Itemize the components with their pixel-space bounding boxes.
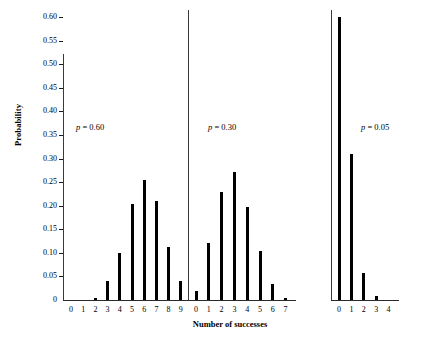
bar	[362, 273, 365, 300]
y-tick-label: 0.10	[23, 249, 57, 257]
bar	[220, 192, 223, 300]
vertical-axis-line	[331, 10, 332, 300]
baseline-axis-line	[188, 300, 296, 301]
bar	[143, 180, 146, 300]
bar	[271, 284, 274, 300]
p-value-text: = 0.60	[80, 122, 104, 132]
y-tick-mark	[59, 17, 63, 18]
y-tick-label: 0.40	[23, 107, 57, 115]
binomial-distributions-figure: Probability Number of successes 00.050.1…	[0, 0, 422, 340]
baseline-axis-line	[331, 300, 399, 301]
bar	[233, 172, 236, 300]
x-tick-label: 7	[279, 306, 293, 314]
y-tick-label: 0.60	[23, 13, 57, 21]
p-value-text: = 0.05	[365, 122, 389, 132]
bar	[284, 298, 287, 300]
y-tick-label: 0.25	[23, 178, 57, 186]
y-tick-label: 0	[23, 296, 57, 304]
x-tick-label: 9	[174, 306, 188, 314]
baseline-axis-line	[63, 300, 191, 301]
bar	[118, 253, 121, 300]
bar	[179, 281, 182, 300]
y-tick-label: 0.30	[23, 155, 57, 163]
y-tick-mark	[59, 41, 63, 42]
y-axis-label: Probability	[13, 75, 23, 175]
bar	[259, 251, 262, 300]
p-value-text: = 0.30	[212, 122, 236, 132]
bar	[167, 247, 170, 300]
probability-annotation: p = 0.05	[361, 122, 389, 132]
vertical-axis-line	[188, 10, 189, 300]
bar	[94, 298, 97, 300]
x-tick-label: 4	[382, 306, 396, 314]
bar	[195, 291, 198, 300]
bar	[350, 154, 353, 300]
vertical-axis-line	[63, 54, 64, 300]
probability-annotation: p = 0.60	[76, 122, 104, 132]
probability-annotation: p = 0.30	[208, 122, 236, 132]
bar	[207, 243, 210, 300]
y-tick-label: 0.35	[23, 131, 57, 139]
bar	[155, 201, 158, 300]
bar	[246, 207, 249, 300]
bar	[338, 17, 341, 300]
bar	[131, 204, 134, 300]
y-tick-label: 0.55	[23, 37, 57, 45]
y-tick-label: 0.15	[23, 225, 57, 233]
bar	[106, 281, 109, 300]
y-tick-label: 0.45	[23, 84, 57, 92]
bar	[375, 296, 378, 300]
x-axis-title: Number of successes	[150, 319, 310, 329]
y-tick-label: 0.20	[23, 202, 57, 210]
y-tick-label: 0.50	[23, 60, 57, 68]
y-tick-label: 0.05	[23, 272, 57, 280]
